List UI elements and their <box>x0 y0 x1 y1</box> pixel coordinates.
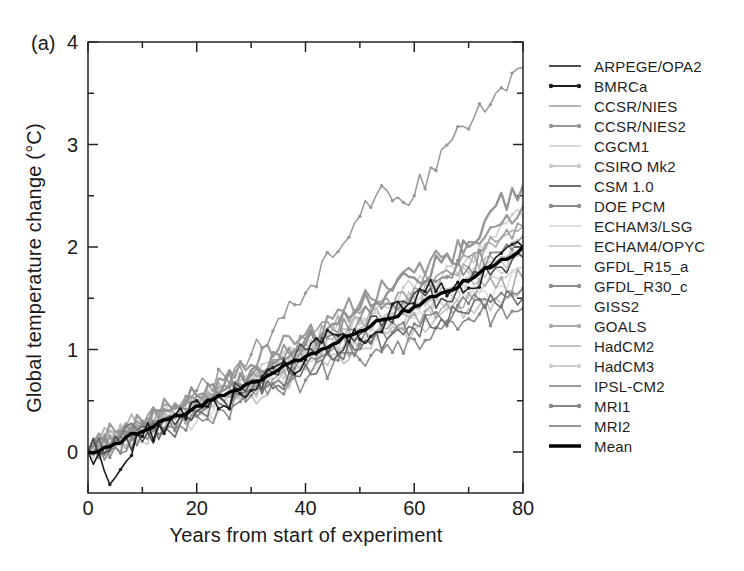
legend-item-cgcm1: CGCM1 <box>548 136 705 156</box>
series-marker-mri1 <box>467 302 470 305</box>
legend-item-label: CSM 1.0 <box>594 178 654 195</box>
legend-swatch-giss2 <box>548 300 582 312</box>
legend-swatch-hadcm3 <box>548 360 582 372</box>
legend-swatch-ccsr-nies <box>548 100 582 112</box>
series-marker-bmrca <box>445 294 448 297</box>
legend-item-doe-pcm: DOE PCM <box>548 196 705 216</box>
series-marker-doe-pcm <box>467 317 470 320</box>
series-marker-goals <box>445 302 448 305</box>
series-marker-gfdl-r30-c <box>315 344 318 347</box>
series-marker-doe-pcm <box>402 352 405 355</box>
series-marker-goals <box>282 369 285 372</box>
legend-swatch-ccsr-nies2 <box>548 120 582 132</box>
legend-item-label: MRI1 <box>594 398 631 415</box>
y-tick-label: 3 <box>67 134 78 156</box>
legend-swatch-csiro-mk2 <box>548 160 582 172</box>
series-marker-bmrca <box>336 334 339 337</box>
series-marker-mri1 <box>239 400 242 403</box>
legend-item-label: Mean <box>594 438 632 455</box>
series-marker-ccsr-nies2 <box>293 303 296 306</box>
series-marker-doe-pcm <box>108 456 111 459</box>
series-marker-bmrca <box>326 328 329 331</box>
x-tick-label: 40 <box>294 497 316 519</box>
series-marker-ccsr-nies2 <box>445 143 448 146</box>
series-marker-doe-pcm <box>347 351 350 354</box>
series-marker-bmrca <box>510 243 513 246</box>
series-marker-bmrca <box>271 366 274 369</box>
series-marker-doe-pcm <box>369 354 372 357</box>
series-marker-hadcm3 <box>402 285 405 288</box>
series-marker-goals <box>500 276 503 279</box>
series-marker-goals <box>434 316 437 319</box>
series-marker-mri1 <box>402 321 405 324</box>
series-marker-bmrca <box>206 405 209 408</box>
series-marker-mri1 <box>434 311 437 314</box>
series-marker-bmrca <box>391 302 394 305</box>
series-marker-gfdl-r30-c <box>119 429 122 432</box>
legend-item-label: HadCM3 <box>594 358 654 375</box>
series-marker-mri1 <box>293 367 296 370</box>
series-marker-gfdl-r30-c <box>347 328 350 331</box>
x-tick-label: 20 <box>186 497 208 519</box>
series-marker-bmrca <box>467 286 470 289</box>
series-marker-bmrca <box>380 330 383 333</box>
legend-item-label: CCSR/NIES <box>594 98 677 115</box>
legend-item-ccsr-nies2: CCSR/NIES2 <box>548 116 705 136</box>
series-marker-ccsr-nies2 <box>260 346 263 349</box>
series-marker-mri1 <box>336 359 339 362</box>
legend-swatch-mri2 <box>548 420 582 432</box>
series-marker-doe-pcm <box>228 417 231 420</box>
series-marker-gfdl-r30-c <box>249 373 252 376</box>
series-marker-gfdl-r30-c <box>141 420 144 423</box>
series-marker-bmrca <box>434 290 437 293</box>
series-marker-mri1 <box>413 322 416 325</box>
series-marker-doe-pcm <box>304 379 307 382</box>
legend-item-giss2: GISS2 <box>548 296 705 316</box>
series-marker-ccsr-nies2 <box>108 434 111 437</box>
y-tick-label: 2 <box>67 236 78 258</box>
figure-panel: (a) Global temperature change (°C) 02040… <box>0 0 744 571</box>
series-marker-csiro-mk2 <box>467 271 470 274</box>
series-marker-mri1 <box>119 451 122 454</box>
series-marker-bmrca <box>500 252 503 255</box>
series-marker-gfdl-r30-c <box>358 317 361 320</box>
series-marker-gfdl-r30-c <box>304 343 307 346</box>
series-marker-gfdl-r30-c <box>478 249 481 252</box>
legend-item-label: ECHAM4/OPYC <box>594 238 705 255</box>
series-line-bmrca <box>88 242 523 485</box>
legend-item-ipsl-cm2: IPSL-CM2 <box>548 376 705 396</box>
series-marker-ccsr-nies2 <box>467 127 470 130</box>
series-marker-doe-pcm <box>358 358 361 361</box>
series-marker-ccsr-nies2 <box>489 103 492 106</box>
series-marker-gfdl-r30-c <box>184 407 187 410</box>
series-marker-doe-pcm <box>206 417 209 420</box>
legend-item-label: ARPEGE/OPA2 <box>594 58 702 75</box>
legend-item-arpege-opa2: ARPEGE/OPA2 <box>548 56 705 76</box>
series-marker-ccsr-nies2 <box>402 201 405 204</box>
legend-item-goals: GOALS <box>548 316 705 336</box>
legend-item-csm-1-0: CSM 1.0 <box>548 176 705 196</box>
legend-item-label: CSIRO Mk2 <box>594 158 676 175</box>
legend-item-echam3-lsg: ECHAM3/LSG <box>548 216 705 236</box>
series-marker-mri1 <box>315 358 318 361</box>
legend-swatch-hadcm2 <box>548 340 582 352</box>
legend-swatch-mri1 <box>548 400 582 412</box>
series-line-mri1 <box>88 288 523 460</box>
legend-item-label: ECHAM3/LSG <box>594 218 693 235</box>
legend-item-echam4-opyc: ECHAM4/OPYC <box>548 236 705 256</box>
x-axis-title: Years from start of experiment <box>88 524 524 547</box>
series-marker-gfdl-r30-c <box>489 251 492 254</box>
series-marker-ccsr-nies2 <box>239 360 242 363</box>
series-marker-bmrca <box>119 468 122 471</box>
series-marker-hadcm3 <box>510 213 513 216</box>
series-marker-gfdl-r30-c <box>228 385 231 388</box>
legend-item-gfdl-r30-c: GFDL_R30_c <box>548 276 705 296</box>
series-marker-gfdl-r30-c <box>456 259 459 262</box>
series-line-mri2 <box>88 186 523 456</box>
y-tick-label: 1 <box>67 339 78 361</box>
series-marker-ccsr-nies2 <box>347 236 350 239</box>
legend-item-mean: Mean <box>548 436 705 456</box>
series-marker-gfdl-r30-c <box>369 311 372 314</box>
series-marker-bmrca <box>108 483 111 486</box>
series-marker-ccsr-nies2 <box>510 71 513 74</box>
